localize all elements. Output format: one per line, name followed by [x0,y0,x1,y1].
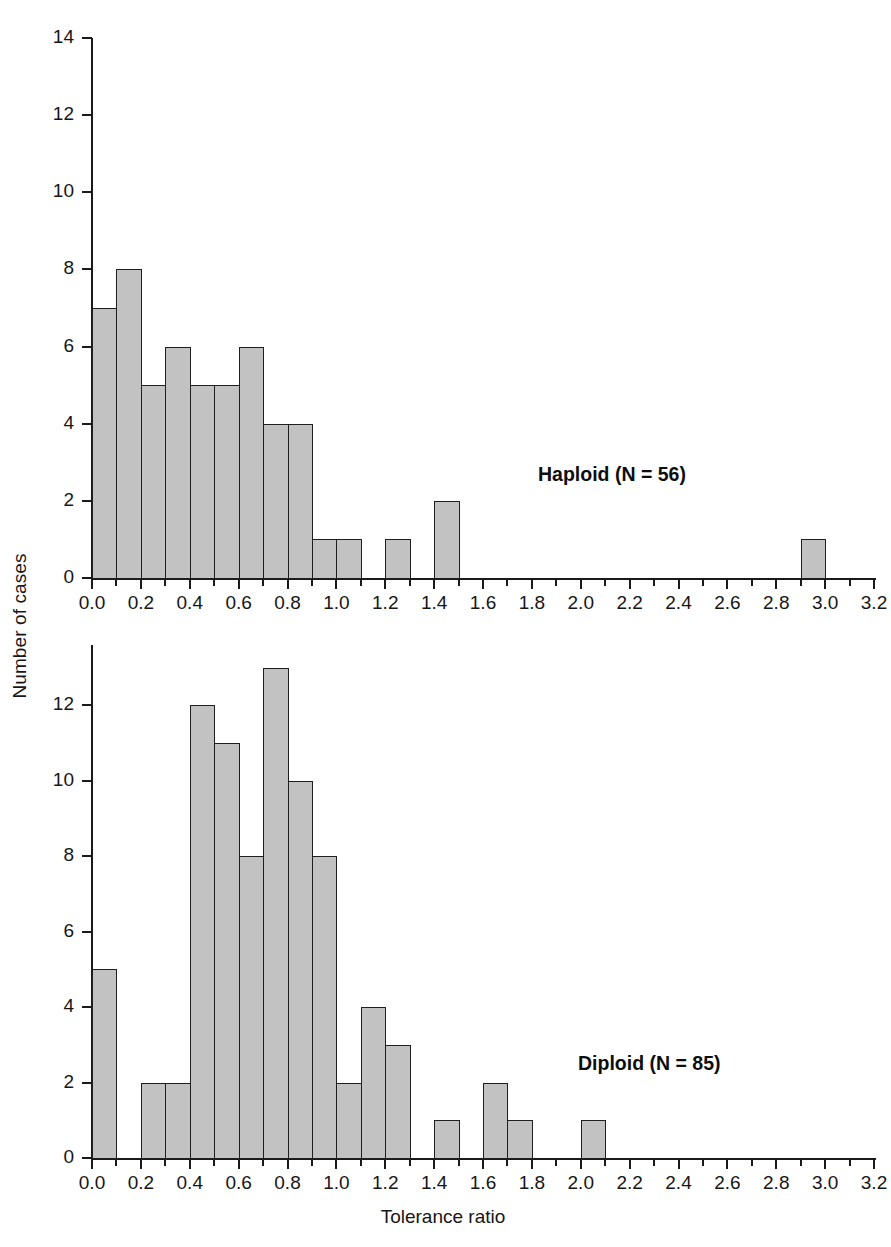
x-axis-tick-major [140,580,142,589]
histogram-bar [288,781,313,1159]
x-axis-tick-major [189,580,191,589]
x-axis-tick-minor [311,1160,313,1166]
x-axis-tick-major [873,580,875,589]
x-axis-tick-label: 2.0 [553,592,609,614]
y-axis-tick [82,423,92,425]
histogram-bar [92,969,117,1159]
y-axis-tick [82,1082,92,1084]
x-axis-tick-minor [555,1160,557,1166]
x-axis-tick-major [91,1160,93,1169]
x-axis-tick-major [580,1160,582,1169]
series-label-haploid: Haploid (N = 56) [538,463,686,486]
y-axis-tick-label: 12 [30,103,74,125]
x-axis-tick-minor [506,1160,508,1166]
x-axis-tick-minor [409,1160,411,1166]
histogram-bar [116,269,141,579]
histogram-bar [483,1083,508,1159]
histogram-bar [92,308,117,579]
histogram-bar [434,1120,459,1159]
x-axis-tick-label: 2.6 [699,592,755,614]
x-axis-tick-label: 2.4 [651,592,707,614]
x-axis-tick-major [238,580,240,589]
histogram-bar [165,1083,190,1159]
x-axis-tick-major [531,580,533,589]
x-axis-tick-major [433,580,435,589]
x-axis-tick-major [238,1160,240,1169]
x-axis-tick-major [629,1160,631,1169]
histogram-bar [214,385,239,579]
x-axis-tick-label: 0.4 [162,1172,218,1194]
y-axis-tick [82,346,92,348]
x-axis-tick-label: 2.0 [553,1172,609,1194]
x-axis-tick-minor [800,580,802,586]
y-axis-tick [82,931,92,933]
x-axis-tick-label: 0.0 [64,592,120,614]
y-axis-tick [82,268,92,270]
x-axis-tick-major [775,1160,777,1169]
histogram-bar [190,385,215,579]
y-axis-tick [82,855,92,857]
y-axis-tick [82,780,92,782]
x-axis-tick-major [433,1160,435,1169]
x-axis-tick-label: 1.8 [504,1172,560,1194]
x-axis-tick-label: 0.4 [162,592,218,614]
x-axis-tick-minor [115,1160,117,1166]
x-axis-tick-minor [751,1160,753,1166]
x-axis-tick-minor [458,580,460,586]
x-axis-tick-label: 1.6 [455,592,511,614]
x-axis-tick-minor [555,580,557,586]
x-axis-tick-label: 1.8 [504,592,560,614]
x-axis-tick-major [335,580,337,589]
y-axis-tick-label: 0 [30,1146,74,1168]
x-axis-tick-major [384,580,386,589]
x-axis-tick-major [140,1160,142,1169]
histogram-bar [214,743,239,1159]
x-axis-tick-label: 0.0 [64,1172,120,1194]
histogram-bar [239,347,264,579]
x-axis-tick-major [873,1160,875,1169]
y-axis-tick-label: 14 [30,26,74,48]
x-axis-tick-minor [506,580,508,586]
y-axis-tick-label: 6 [30,920,74,942]
x-axis-tick-label: 1.0 [308,1172,364,1194]
x-axis-tick-minor [262,580,264,586]
x-axis-tick-label: 0.2 [113,1172,169,1194]
histogram-bar [312,539,337,579]
x-axis-tick-major [726,1160,728,1169]
x-axis-tick-major [775,580,777,589]
histogram-bar [336,1083,361,1159]
histogram-bar [190,705,215,1159]
x-axis-tick-minor [164,580,166,586]
y-axis-tick-label: 0 [30,566,74,588]
y-axis-tick-label: 8 [30,257,74,279]
x-axis-tick-major [629,580,631,589]
y-axis-tick [82,1006,92,1008]
x-axis-label: Tolerance ratio [0,1206,886,1228]
x-axis-tick-label: 0.6 [211,1172,267,1194]
y-axis-tick-label: 6 [30,335,74,357]
x-axis-tick-label: 1.0 [308,592,364,614]
y-axis-tick [82,37,92,39]
x-axis-tick-minor [458,1160,460,1166]
histogram-bar [141,1083,166,1159]
x-axis-tick-label: 1.2 [357,1172,413,1194]
x-axis-tick-major [726,580,728,589]
x-axis-tick-major [482,580,484,589]
x-axis-tick-label: 2.6 [699,1172,755,1194]
histogram-bar [288,424,313,579]
x-axis-tick-minor [115,580,117,586]
x-axis-tick-minor [311,580,313,586]
x-axis-tick-label: 3.2 [846,592,891,614]
histogram-bar [385,1045,410,1159]
histogram-bar [312,856,337,1159]
x-axis-tick-major [580,580,582,589]
x-axis-tick-minor [360,580,362,586]
histogram-bar [581,1120,606,1159]
x-axis-tick-major [91,580,93,589]
x-axis-tick-label: 3.2 [846,1172,891,1194]
y-axis-tick [82,577,92,579]
y-axis-tick-label: 4 [30,995,74,1017]
x-axis-tick-minor [213,580,215,586]
x-axis-tick-minor [849,1160,851,1166]
y-axis-tick-label: 12 [30,693,74,715]
